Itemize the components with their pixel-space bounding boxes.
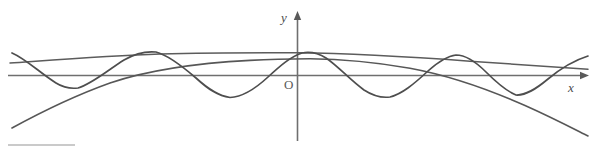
origin-label: O <box>284 78 293 91</box>
curve-slanted-arc <box>12 59 588 136</box>
y-axis-label: y <box>281 11 287 24</box>
x-axis-arrowhead <box>580 72 589 79</box>
x-axis <box>8 72 589 79</box>
graph-canvas <box>0 0 596 151</box>
curve-broad-arch <box>10 53 588 69</box>
x-axis-label: x <box>568 81 574 94</box>
graph-figure: y x O <box>0 0 596 151</box>
y-axis-arrowhead <box>294 11 301 20</box>
